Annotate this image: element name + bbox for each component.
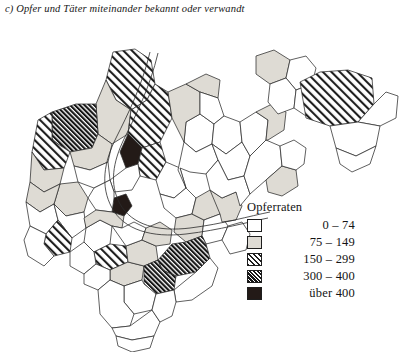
choropleth-map — [0, 22, 407, 352]
figure-title: c) Opfer und Täter miteinander bekannt o… — [5, 3, 245, 14]
legend-item: 300 – 400 — [247, 268, 397, 285]
legend-item: 150 – 299 — [247, 251, 397, 268]
legend-swatch-white — [247, 219, 262, 232]
figure-panel: c) Opfer und Täter miteinander bekannt o… — [0, 0, 407, 352]
legend-swatch-dense-hatch — [247, 270, 262, 283]
map-canvas — [0, 22, 407, 352]
legend-item: über 400 — [247, 285, 397, 302]
legend-label: 0 – 74 — [262, 218, 397, 233]
legend-rows: 0 – 7475 – 149150 – 299300 – 400über 400 — [247, 217, 397, 302]
map-region — [280, 140, 306, 170]
legend-item: 75 – 149 — [247, 234, 397, 251]
legend-label: 300 – 400 — [262, 269, 397, 284]
legend-swatch-diagonal-hatch — [247, 253, 262, 266]
legend-label: 75 – 149 — [262, 235, 397, 250]
legend-swatch-light-gray — [247, 236, 262, 249]
legend-item: 0 – 74 — [247, 217, 397, 234]
legend-label: 150 – 299 — [262, 252, 397, 267]
map-legend: Opferraten 0 – 7475 – 149150 – 299300 – … — [247, 200, 397, 302]
legend-swatch-solid-black — [247, 287, 262, 300]
legend-label: über 400 — [262, 286, 397, 301]
legend-title: Opferraten — [247, 200, 397, 215]
